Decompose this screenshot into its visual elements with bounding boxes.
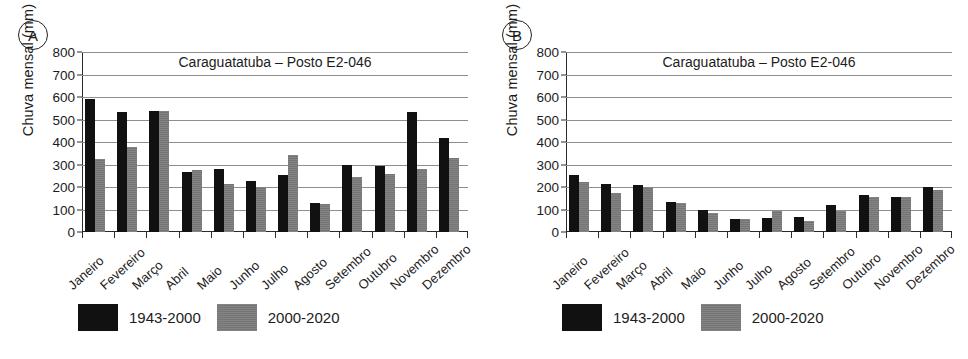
bar	[320, 204, 330, 232]
bar	[826, 205, 836, 232]
bar	[192, 170, 202, 232]
legend-label: 1943-2000	[613, 309, 685, 326]
bar-group	[372, 52, 404, 232]
bar	[804, 221, 814, 232]
bar	[288, 155, 298, 232]
bar	[310, 203, 320, 232]
legend-swatch	[701, 304, 741, 331]
bar-group	[339, 52, 371, 232]
x-axis-labels-a: JaneiroFevereiroMarçoAbrilMaioJunhoJulho…	[82, 240, 468, 298]
bar	[730, 219, 740, 233]
bar	[762, 218, 772, 232]
figure-rainfall-comparison: A Chuva mensal (mm) 01002003004005006007…	[0, 0, 968, 359]
x-axis-tick	[404, 232, 436, 239]
bar-group	[146, 52, 178, 232]
bar-group	[759, 52, 791, 232]
bar-group	[114, 52, 146, 232]
bar-group	[566, 52, 598, 232]
bar	[85, 99, 95, 232]
x-axis-tick	[307, 232, 339, 239]
bar	[407, 112, 417, 232]
x-axis-label: Janeiro	[65, 253, 107, 293]
bar-group	[211, 52, 243, 232]
bar	[859, 195, 869, 232]
bar	[182, 172, 192, 232]
x-axis-tick	[695, 232, 727, 239]
bar	[633, 185, 643, 232]
bar	[698, 210, 708, 233]
legend-label: 2000-2020	[752, 309, 824, 326]
bar-group	[920, 52, 952, 232]
bar-group	[404, 52, 436, 232]
bar	[933, 190, 943, 232]
legend-b: 1943-20002000-2020	[562, 304, 823, 331]
plot-area-b: 0100200300400500600700800	[566, 52, 952, 232]
x-axis-tick	[146, 232, 178, 239]
x-axis-tick	[179, 232, 211, 239]
bar-group	[791, 52, 823, 232]
x-axis-tickmarks-a	[82, 232, 468, 239]
bar	[836, 211, 846, 232]
y-axis-title: Chuva mensal (mm)	[504, 0, 520, 160]
bar-group	[727, 52, 759, 232]
bar	[794, 217, 804, 232]
bar	[569, 175, 579, 232]
x-axis-tick	[823, 232, 855, 239]
bar	[611, 193, 621, 232]
bar	[417, 169, 427, 232]
bar	[352, 177, 362, 232]
bar	[256, 187, 266, 232]
bar	[601, 184, 611, 232]
x-axis-tick	[727, 232, 759, 239]
bar	[676, 203, 686, 232]
bar	[159, 111, 169, 233]
x-axis-label: Janeiro	[549, 253, 591, 293]
bar	[224, 184, 234, 232]
x-axis-tick	[114, 232, 146, 239]
legend-label: 1943-2000	[129, 309, 201, 326]
x-axis-label-cell: Dezembro	[920, 240, 952, 298]
bar	[214, 169, 224, 232]
legend-item: 1943-2000	[78, 304, 201, 331]
x-axis-tick	[598, 232, 630, 239]
bar-series-container	[82, 52, 468, 232]
x-axis-tick	[275, 232, 307, 239]
bar-group	[436, 52, 468, 232]
x-axis-tick	[630, 232, 662, 239]
bar	[149, 111, 159, 233]
legend-swatch	[562, 304, 602, 331]
bar-group	[598, 52, 630, 232]
x-axis-tick	[339, 232, 371, 239]
bar	[385, 174, 395, 232]
bar	[278, 175, 288, 232]
bar	[666, 202, 676, 232]
bar	[117, 112, 127, 232]
plot-area-a: 0100200300400500600700800	[82, 52, 468, 232]
bar	[95, 159, 105, 232]
panel-b: B Chuva mensal (mm) 01002003004005006007…	[484, 0, 968, 359]
bar-group	[243, 52, 275, 232]
bar-group	[82, 52, 114, 232]
bar-group	[663, 52, 695, 232]
bar-group	[630, 52, 662, 232]
x-axis-tick	[759, 232, 791, 239]
bar-group	[275, 52, 307, 232]
bar	[127, 147, 137, 233]
plot-canvas-a: 0100200300400500600700800	[82, 52, 468, 232]
bar-group	[695, 52, 727, 232]
bar	[891, 197, 901, 232]
bar-series-container	[566, 52, 952, 232]
x-axis-tick	[888, 232, 920, 239]
bar	[449, 158, 459, 232]
y-axis-title: Chuva mensal (mm)	[20, 0, 36, 160]
legend-swatch	[217, 304, 257, 331]
bar	[246, 181, 256, 232]
x-axis-tick	[82, 232, 114, 239]
legend-item: 1943-2000	[562, 304, 685, 331]
bar-group	[307, 52, 339, 232]
bar	[643, 187, 653, 232]
x-axis-tick	[566, 232, 598, 239]
legend-a: 1943-20002000-2020	[78, 304, 339, 331]
bar	[869, 197, 879, 232]
plot-canvas-b: 0100200300400500600700800	[566, 52, 952, 232]
